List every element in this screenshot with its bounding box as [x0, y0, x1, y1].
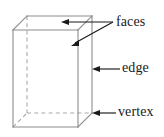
- callout-label-vertex: vertex: [118, 105, 154, 119]
- leader-line-faces-right: [75, 22, 113, 43]
- leader-vertex-group: [92, 110, 116, 116]
- arrowhead-faces-right: [71, 40, 79, 46]
- edge-top-right-diagonal: [78, 16, 92, 30]
- visible-edges-group: [13, 16, 92, 127]
- edge-top-left-diagonal: [13, 16, 27, 30]
- cuboid-diagram: faces edge vertex: [0, 0, 164, 137]
- callout-label-edge: edge: [122, 61, 149, 75]
- arrowhead-faces-top: [61, 19, 69, 25]
- edge-bottom-right-diagonal: [78, 113, 92, 127]
- leader-faces-group: [61, 19, 113, 46]
- arrowhead-edge: [92, 66, 100, 72]
- hidden-edges-group: [13, 16, 92, 127]
- leader-edge-group: [92, 66, 120, 72]
- arrowhead-vertex: [92, 110, 100, 116]
- hidden-edge-bottom-left-diagonal: [13, 113, 27, 127]
- callout-label-faces: faces: [116, 15, 145, 29]
